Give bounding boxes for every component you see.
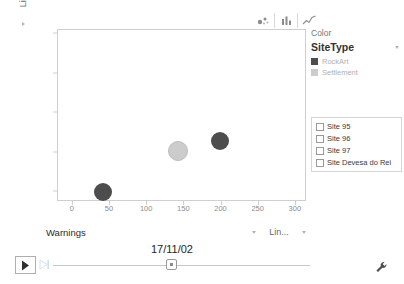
x-axis-title[interactable]: Warnings <box>46 227 86 238</box>
x-axis-tick-label: 100 <box>131 204 161 213</box>
x-axis-tick-mark <box>72 201 73 205</box>
step-forward-button[interactable] <box>37 257 51 271</box>
x-axis-tick-label: 0 <box>57 204 87 213</box>
bar-chart-icon[interactable] <box>274 13 297 28</box>
x-axis-tick-mark <box>109 201 110 205</box>
x-axis-tick-mark <box>295 201 296 205</box>
site-filter-list: Site 95Site 96Site 97Site Devesa do Rei <box>311 117 402 172</box>
site-checkbox[interactable] <box>316 123 324 131</box>
timeline-bar: 17/11/02 <box>0 243 404 284</box>
x-axis-scale-label: Lin... <box>269 227 289 237</box>
chevron-down-icon <box>302 231 306 234</box>
site-filter-item[interactable]: Site Devesa do Rei <box>316 158 398 167</box>
wrench-settings-icon[interactable] <box>374 260 388 274</box>
data-point-bubble[interactable] <box>211 132 229 150</box>
chevron-down-icon <box>252 231 256 234</box>
x-axis-tick-mark <box>221 201 222 205</box>
x-axis-scale-selector[interactable]: Lin... <box>252 227 306 237</box>
site-label: Site 97 <box>327 146 350 155</box>
bubble-layer <box>58 30 305 200</box>
x-axis-tick-label: 200 <box>206 204 236 213</box>
site-filter-item[interactable]: Site 97 <box>316 146 398 155</box>
data-point-bubble[interactable] <box>94 183 112 201</box>
color-legend-field: SiteType <box>311 41 354 53</box>
site-filter-item[interactable]: Site 95 <box>316 122 398 131</box>
chevron-down-icon <box>395 46 399 49</box>
color-legend-field-row[interactable]: SiteType <box>311 41 399 53</box>
legend-entry[interactable]: Settlement <box>311 68 399 77</box>
site-checkbox[interactable] <box>316 135 324 143</box>
x-axis-tick-label: 50 <box>94 204 124 213</box>
color-legend-entries: RockArtSettlement <box>311 57 399 77</box>
legend-color-swatch <box>311 69 318 76</box>
line-chart-icon[interactable] <box>297 13 320 28</box>
site-checkbox[interactable] <box>316 147 324 155</box>
data-point-bubble[interactable] <box>168 141 188 161</box>
timeline-handle[interactable] <box>166 259 177 270</box>
chevron-down-icon <box>22 22 25 26</box>
site-checkbox[interactable] <box>316 159 324 167</box>
color-legend-title: Color <box>311 28 399 38</box>
x-axis-tick-label: 150 <box>168 204 198 213</box>
x-axis-tick-mark <box>258 201 259 205</box>
legend-color-swatch <box>311 58 318 65</box>
plot-area[interactable] <box>57 29 306 201</box>
chart-type-toolbar <box>252 13 320 28</box>
timeline-track[interactable] <box>53 265 310 266</box>
legend-entry-label: Settlement <box>322 68 358 77</box>
site-filter-item[interactable]: Site 96 <box>316 134 398 143</box>
site-label: Site 96 <box>327 134 350 143</box>
x-axis-tick-mark <box>183 201 184 205</box>
y-axis-scale-selector[interactable]: Lin. <box>16 0 30 26</box>
play-button[interactable] <box>15 256 36 274</box>
timeline-date-label: 17/11/02 <box>118 243 226 255</box>
legend-entry[interactable]: RockArt <box>311 57 399 66</box>
color-legend-panel: Color SiteType RockArtSettlement <box>311 28 399 79</box>
site-label: Site Devesa do Rei <box>327 158 391 167</box>
site-label: Site 95 <box>327 122 350 131</box>
x-axis-tick-label: 300 <box>280 204 310 213</box>
scatter-chart-icon[interactable] <box>252 13 274 28</box>
legend-entry-label: RockArt <box>322 57 349 66</box>
x-axis-tick-label: 250 <box>243 204 273 213</box>
y-axis-scale-label: Lin. <box>18 0 28 7</box>
x-axis-tick-mark <box>146 201 147 205</box>
